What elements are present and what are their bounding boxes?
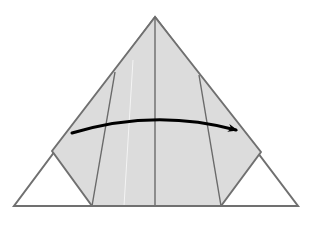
shaded-paper-region — [52, 17, 261, 206]
origami-diagram — [0, 0, 311, 226]
